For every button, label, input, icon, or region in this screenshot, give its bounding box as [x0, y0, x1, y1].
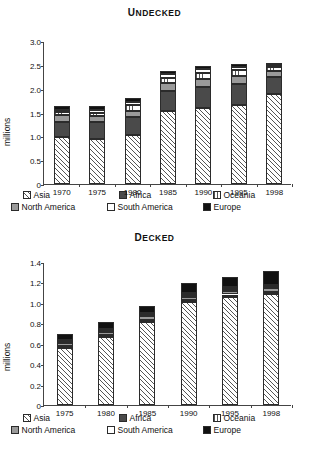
bar-segment-1975-asia[interactable] — [57, 348, 73, 405]
x-tick-label-1990: 1990 — [180, 409, 198, 418]
bar-segment-1970-oceania[interactable] — [54, 112, 70, 115]
bar-1975[interactable] — [57, 334, 73, 406]
bar-segment-1970-africa[interactable] — [54, 122, 70, 137]
bar-segment-1990-europe[interactable] — [195, 66, 211, 69]
bar-segment-1995-europe[interactable] — [222, 277, 238, 287]
legend-item-north-america[interactable]: North America — [11, 202, 107, 212]
bar-segment-1998-asia[interactable] — [263, 294, 279, 405]
bar-segment-1975-africa[interactable] — [89, 122, 105, 139]
bar-segment-1980-asia[interactable] — [98, 337, 114, 405]
x-tick-label-1970: 1970 — [53, 188, 71, 197]
bar-segment-1975-oceania[interactable] — [57, 341, 73, 343]
bar-segment-1970-north-america[interactable] — [54, 115, 70, 122]
legend-item-europe[interactable]: Europe — [203, 425, 299, 435]
bar-segment-1998-oceania[interactable] — [266, 67, 282, 71]
bar-segment-1990-africa[interactable] — [181, 300, 197, 302]
bar-1985[interactable] — [160, 71, 176, 184]
bar-segment-1980-africa[interactable] — [125, 117, 141, 135]
bar-segment-1980-oceania[interactable] — [125, 105, 141, 110]
bar-segment-1975-north-america[interactable] — [89, 116, 105, 122]
bar-segment-1975-oceania[interactable] — [89, 113, 105, 116]
bar-segment-1985-africa[interactable] — [139, 320, 155, 322]
x-tick-label-1998: 1998 — [262, 409, 280, 418]
bar-segment-1998-south-america[interactable] — [266, 65, 282, 67]
bar-segment-1975-africa[interactable] — [57, 346, 73, 348]
bar-segment-1980-europe[interactable] — [125, 98, 141, 102]
bar-segment-1990-europe[interactable] — [181, 283, 197, 293]
bar-segment-1980-oceania[interactable] — [98, 330, 114, 332]
bar-segment-1990-oceania[interactable] — [195, 73, 211, 79]
legend-item-oceania[interactable]: Oceania — [205, 413, 299, 423]
bar-segment-1985-europe[interactable] — [139, 306, 155, 313]
bar-segment-1998-europe[interactable] — [263, 271, 279, 284]
bar-segment-1995-asia[interactable] — [231, 105, 247, 184]
bar-segment-1985-north-america[interactable] — [139, 316, 155, 319]
legend-item-north-america[interactable]: North America — [11, 425, 107, 435]
bar-1998[interactable] — [266, 63, 282, 184]
bar-segment-1998-north-america[interactable] — [263, 288, 279, 292]
bar-segment-1990-africa[interactable] — [195, 87, 211, 107]
bar-segment-1998-africa[interactable] — [266, 77, 282, 94]
bar-1990[interactable] — [181, 283, 197, 405]
bar-segment-1970-asia[interactable] — [54, 137, 70, 184]
bar-segment-1995-africa[interactable] — [231, 84, 247, 104]
bar-segment-1975-south-america[interactable] — [89, 110, 105, 113]
bar-segment-1980-north-america[interactable] — [125, 111, 141, 118]
bar-segment-1985-north-america[interactable] — [160, 83, 176, 91]
bar-segment-1990-north-america[interactable] — [195, 79, 211, 87]
bar-1998[interactable] — [263, 271, 279, 405]
bar-segment-1985-asia[interactable] — [160, 111, 176, 184]
bar-segment-1975-europe[interactable] — [89, 106, 105, 110]
bar-segment-1985-oceania[interactable] — [139, 314, 155, 316]
bar-segment-1985-europe[interactable] — [160, 71, 176, 74]
bar-segment-1995-north-america[interactable] — [231, 76, 247, 84]
bar-1990[interactable] — [195, 66, 211, 184]
legend-swatch-north-america-icon — [11, 426, 19, 434]
bar-segment-1990-north-america[interactable] — [181, 297, 197, 300]
bar-1995[interactable] — [231, 64, 247, 184]
bar-segment-1970-europe[interactable] — [54, 106, 70, 110]
bar-segment-1980-europe[interactable] — [98, 322, 114, 329]
bar-segment-1995-africa[interactable] — [222, 295, 238, 297]
bar-segment-1980-africa[interactable] — [98, 335, 114, 337]
bar-segment-1998-asia[interactable] — [266, 94, 282, 184]
bar-segment-1985-asia[interactable] — [139, 322, 155, 405]
bar-segment-1990-asia[interactable] — [195, 108, 211, 184]
bar-segment-1995-asia[interactable] — [222, 297, 238, 405]
legend-item-south-america[interactable]: South America — [107, 202, 203, 212]
y-tick-mark — [41, 137, 44, 138]
bar-segment-1980-north-america[interactable] — [98, 332, 114, 335]
bar-segment-1995-north-america[interactable] — [222, 291, 238, 295]
bar-segment-1995-oceania[interactable] — [231, 70, 247, 76]
bar-segment-1975-north-america[interactable] — [57, 343, 73, 346]
bar-segment-1970-south-america[interactable] — [54, 110, 70, 112]
legend-item-south-america[interactable]: South America — [107, 425, 203, 435]
bar-segment-1990-oceania[interactable] — [181, 295, 197, 297]
bar-segment-1975-europe[interactable] — [57, 334, 73, 341]
bar-segment-1998-north-america[interactable] — [266, 71, 282, 77]
bar-1975[interactable] — [89, 106, 105, 184]
legend-label-south-america: South America — [118, 202, 173, 212]
bar-segment-1980-south-america[interactable] — [125, 102, 141, 105]
bar-segment-1998-oceania[interactable] — [263, 286, 279, 288]
bar-segment-1985-africa[interactable] — [160, 91, 176, 111]
bar-segment-1998-europe[interactable] — [266, 63, 282, 65]
bar-segment-1975-asia[interactable] — [89, 139, 105, 184]
bar-1995[interactable] — [222, 277, 238, 405]
bar-segment-1990-asia[interactable] — [181, 302, 197, 405]
bar-segment-1985-south-america[interactable] — [160, 74, 176, 77]
bar-1980[interactable] — [125, 98, 141, 184]
bar-1985[interactable] — [139, 306, 155, 405]
bar-1970[interactable] — [54, 106, 70, 184]
legend-item-europe[interactable]: Europe — [203, 202, 299, 212]
bar-segment-1995-south-america[interactable] — [231, 67, 247, 70]
bar-segment-1985-oceania[interactable] — [160, 78, 176, 84]
bar-segment-1980-asia[interactable] — [125, 135, 141, 184]
bar-segment-1995-europe[interactable] — [231, 64, 247, 67]
bar-segment-1990-south-america[interactable] — [195, 69, 211, 73]
bar-segment-1998-africa[interactable] — [263, 292, 279, 294]
legend-swatch-asia-icon — [23, 191, 31, 199]
bar-1980[interactable] — [98, 322, 114, 405]
legend-item-oceania[interactable]: Oceania — [205, 190, 299, 200]
bar-segment-1995-oceania[interactable] — [222, 289, 238, 291]
